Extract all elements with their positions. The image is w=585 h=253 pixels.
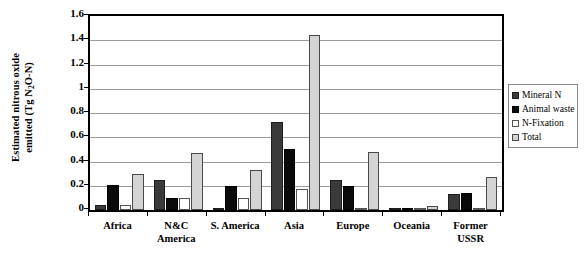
x-axis-category-label: Africa <box>88 219 147 232</box>
y-axis-tick-label: 0.6 <box>44 129 84 140</box>
bar-series-container <box>90 16 502 210</box>
bar <box>166 198 178 210</box>
bar <box>179 198 191 210</box>
bar <box>486 177 498 210</box>
chart-legend: Mineral NAnimal wasteN-FixationTotal <box>508 84 578 148</box>
x-axis-label-line: S. America <box>206 219 265 232</box>
x-axis-category-label: Europe <box>323 219 382 232</box>
y-axis-tick-label: 1.4 <box>44 32 84 43</box>
y-axis-tick-mark <box>84 38 89 39</box>
y-axis-tick-label: 1.2 <box>44 57 84 68</box>
x-axis-label-line: Africa <box>88 219 147 232</box>
legend-swatch-icon <box>512 120 519 127</box>
bar-group <box>208 16 267 210</box>
y-axis-tick-mark <box>84 111 89 112</box>
bar <box>154 180 166 210</box>
x-axis-tick-mark <box>265 210 266 216</box>
x-axis-category-label: FormerUSSR <box>441 219 500 245</box>
bar <box>284 149 296 210</box>
bar-group <box>325 16 384 210</box>
bar-group <box>443 16 502 210</box>
x-axis-tick-mark <box>323 210 324 216</box>
x-axis-category-label: N&CAmerica <box>147 219 206 245</box>
x-axis-tick-mark <box>382 210 383 216</box>
x-axis-labels: AfricaN&CAmericaS. AmericaAsiaEuropeOcea… <box>88 210 500 253</box>
legend-label: Mineral N <box>522 90 561 100</box>
bar <box>107 185 119 210</box>
x-axis-label-line: N&C <box>147 219 206 232</box>
legend-label: Total <box>522 132 541 142</box>
x-axis-tick-mark <box>88 210 89 216</box>
x-axis-category-label: Asia <box>265 219 324 232</box>
x-axis-tick-mark <box>441 210 442 216</box>
y-axis-tick-label: 1 <box>44 81 84 92</box>
y-axis-tick-label: 1.6 <box>44 8 84 19</box>
y-axis-tick-mark <box>84 184 89 185</box>
bar <box>309 35 321 210</box>
bar <box>296 189 308 210</box>
bar <box>250 170 262 210</box>
bar <box>225 186 237 210</box>
x-axis-tick-mark <box>500 210 501 216</box>
x-axis-label-line: Europe <box>323 219 382 232</box>
bar-group <box>90 16 149 210</box>
y-axis-title-line1: Estimated nitrous oxide <box>10 53 21 162</box>
y-axis-tick-mark <box>84 14 89 15</box>
y-axis-tick-label: 0.8 <box>44 105 84 116</box>
x-axis-label-line: Asia <box>265 219 324 232</box>
legend-label: N-Fixation <box>522 118 564 128</box>
bar-group <box>149 16 208 210</box>
legend-item[interactable]: Animal waste <box>512 102 574 116</box>
bar <box>461 193 473 210</box>
legend-swatch-icon <box>512 106 519 113</box>
bar <box>448 194 460 210</box>
legend-label: Animal waste <box>522 104 575 114</box>
y-axis-tick-label: 0 <box>44 202 84 213</box>
bar <box>238 198 250 210</box>
x-axis-label-line: Oceania <box>382 219 441 232</box>
y-axis-tick-mark <box>84 135 89 136</box>
bar <box>368 152 380 210</box>
bar <box>191 153 203 210</box>
y-axis-tick-mark <box>84 87 89 88</box>
x-axis-tick-mark <box>206 210 207 216</box>
bar <box>330 180 342 210</box>
bar <box>132 174 144 210</box>
plot-area <box>88 14 504 212</box>
legend-swatch-icon <box>512 134 519 141</box>
legend-item[interactable]: Mineral N <box>512 88 574 102</box>
y-axis-title-line2: emitted (Tg N2O-N) <box>22 53 38 162</box>
legend-item[interactable]: N-Fixation <box>512 116 574 130</box>
y-axis-tick-label: 0.4 <box>44 154 84 165</box>
nitrous-oxide-bar-chart: Estimated nitrous oxide emitted (Tg N2O-… <box>0 0 585 253</box>
y-axis-tick-mark <box>84 63 89 64</box>
x-axis-label-line: USSR <box>441 232 500 245</box>
y-axis-tick-label: 0.2 <box>44 178 84 189</box>
x-axis-label-line: America <box>147 232 206 245</box>
x-axis-tick-mark <box>147 210 148 216</box>
x-axis-category-label: S. America <box>206 219 265 232</box>
bar <box>343 186 355 210</box>
bar-group <box>384 16 443 210</box>
y-axis-tick-mark <box>84 208 89 209</box>
legend-swatch-icon <box>512 92 519 99</box>
bar-group <box>267 16 326 210</box>
x-axis-label-line: Former <box>441 219 500 232</box>
x-axis-category-label: Oceania <box>382 219 441 232</box>
y-axis-tick-mark <box>84 160 89 161</box>
legend-item[interactable]: Total <box>512 130 574 144</box>
y-axis-tick-labels: 00.20.40.60.811.21.41.6 <box>40 14 84 208</box>
bar <box>271 122 283 211</box>
